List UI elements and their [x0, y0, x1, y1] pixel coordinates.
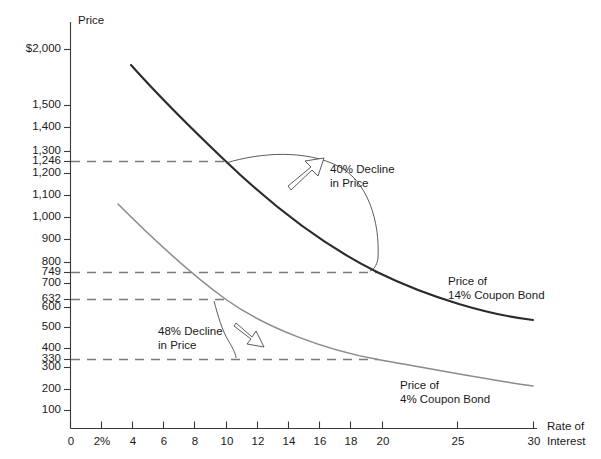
y-tick-label: 700 — [42, 277, 61, 289]
leader-label-14-percent — [419, 263, 455, 272]
chart-canvas: Price Rate of Interest $2,000 1,500 1,40… — [0, 0, 601, 459]
arrow-48-percent-decline — [234, 323, 264, 347]
x-tick-label: 2% — [88, 436, 116, 448]
annotation-40-decline-line1: 40% Decline — [330, 163, 395, 177]
x-tick-label: 10 — [213, 436, 241, 448]
y-tick-label: 1,200 — [32, 167, 61, 179]
y-tick-label: 500 — [42, 321, 61, 333]
x-tick-marks — [71, 422, 534, 429]
y-tick-label: 1,000 — [32, 211, 61, 223]
chart-svg — [0, 0, 601, 459]
y-tick-label: 900 — [42, 233, 61, 245]
y-tick-label: $2,000 — [26, 43, 61, 55]
x-axis-title-line1: Rate of — [547, 421, 584, 433]
x-tick-label: 0 — [57, 436, 85, 448]
curve-label-4-percent-line2: 4% Coupon Bond — [400, 393, 490, 407]
curve-label-14-percent-line2: 14% Coupon Bond — [448, 289, 545, 303]
x-tick-label: 30 — [520, 436, 548, 448]
y-tick-label: 1,100 — [32, 189, 61, 201]
x-axis-title-line2: Interest — [547, 436, 585, 448]
y-tick-label: 600 — [42, 301, 61, 313]
x-tick-label: 12 — [244, 436, 272, 448]
curve-label-14-percent-line1: Price of — [448, 275, 487, 289]
arrow-40-percent-decline — [288, 158, 324, 190]
y-axis-title: Price — [78, 15, 104, 27]
y-tick-label: 1,400 — [32, 121, 61, 133]
x-tick-label: 16 — [306, 436, 334, 448]
y-tick-label: 200 — [42, 383, 61, 395]
y-tick-label-1246: 1,246 — [32, 155, 61, 167]
x-tick-label: 20 — [369, 436, 397, 448]
x-tick-label: 8 — [181, 436, 209, 448]
x-tick-label: 4 — [119, 436, 147, 448]
x-tick-label: 25 — [444, 436, 472, 448]
curve-label-4-percent-line1: Price of — [400, 379, 439, 393]
y-tick-marks — [64, 50, 71, 411]
y-tick-label: 300 — [42, 361, 61, 373]
annotation-48-decline-line2: in Price — [158, 339, 196, 353]
x-tick-label: 18 — [337, 436, 365, 448]
y-tick-label: 100 — [42, 404, 61, 416]
annotation-40-decline-line2: in Price — [330, 177, 368, 191]
x-tick-label: 6 — [150, 436, 178, 448]
annotation-48-decline-line1: 48% Decline — [158, 325, 223, 339]
x-tick-label: 14 — [275, 436, 303, 448]
y-tick-label: 1,500 — [32, 99, 61, 111]
